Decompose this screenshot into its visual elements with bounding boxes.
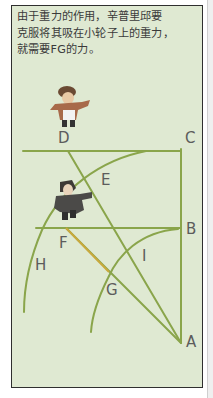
label-a: A	[186, 335, 196, 350]
figure-middle-icon	[54, 180, 92, 220]
force-line-fg	[66, 228, 109, 272]
arc-large	[24, 151, 146, 312]
label-c: C	[185, 131, 195, 146]
label-b: B	[186, 222, 196, 237]
figure-top-icon	[50, 86, 90, 127]
label-d: D	[58, 131, 70, 146]
label-e: E	[101, 173, 110, 188]
label-g: G	[106, 283, 118, 298]
geometry-diagram	[0, 0, 213, 398]
label-h: H	[35, 258, 46, 273]
label-f: F	[59, 236, 68, 251]
label-i: I	[142, 249, 146, 264]
